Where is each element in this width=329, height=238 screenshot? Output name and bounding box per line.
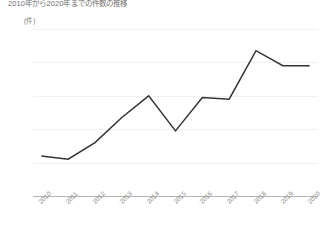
- y-axis-unit-label: (件): [24, 17, 35, 25]
- series-line-kensuu: [41, 51, 309, 160]
- line-chart-figure: 2010年から2020年までの件数の推移 (件) 160140120100806…: [0, 0, 329, 238]
- chart-title: 2010年から2020年までの件数の推移: [8, 0, 127, 7]
- series-line-group: [33, 29, 318, 196]
- plot-area: 1601401201008060: [33, 29, 318, 196]
